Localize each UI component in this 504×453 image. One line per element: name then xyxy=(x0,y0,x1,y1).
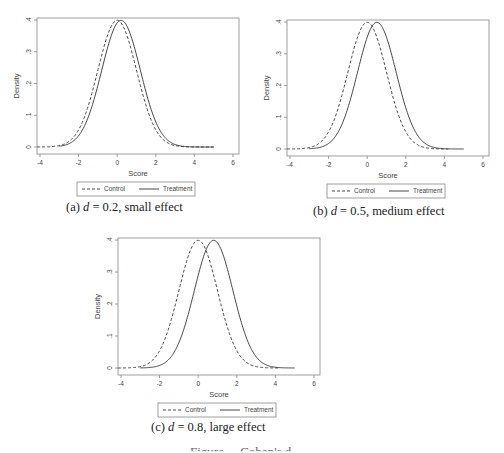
y-tick-label: .1 xyxy=(106,333,113,339)
y-tick-label: 0 xyxy=(106,366,113,370)
treatment-curve xyxy=(140,240,294,368)
y-tick-label: .2 xyxy=(106,301,113,307)
legend-treatment-label: Treatment xyxy=(244,406,274,413)
x-tick-label: 0 xyxy=(196,380,200,387)
chart-panel-c: 0.1.2.3.4Density-4-20246ScoreControlTrea… xyxy=(0,0,504,453)
x-tick-label: -4 xyxy=(118,380,124,387)
x-tick-label: 4 xyxy=(274,380,278,387)
legend-control-label: Control xyxy=(185,406,207,413)
x-tick-label: -2 xyxy=(157,380,163,387)
plot-frame xyxy=(118,238,320,375)
chart-caption-c: (c) d = 0.8, large effect xyxy=(151,420,266,435)
y-tick-label: .3 xyxy=(106,269,113,275)
x-tick-label: 2 xyxy=(235,380,239,387)
y-axis-label: Density xyxy=(93,294,102,319)
x-axis-label: Score xyxy=(209,390,229,399)
density-plot-c: 0.1.2.3.4Density-4-20246ScoreControlTrea… xyxy=(0,0,504,453)
legend: ControlTreatment xyxy=(158,403,276,417)
control-curve xyxy=(118,240,279,368)
y-tick-label: .4 xyxy=(106,237,113,243)
x-tick-label: 6 xyxy=(312,380,316,387)
